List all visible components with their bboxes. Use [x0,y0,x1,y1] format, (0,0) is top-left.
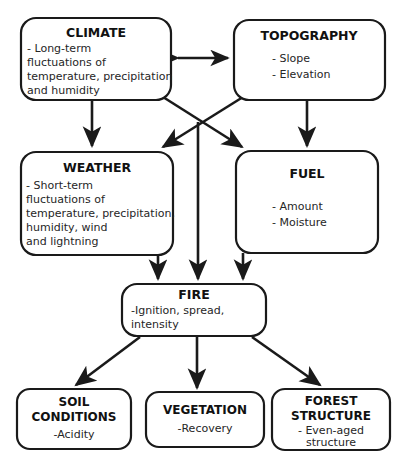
node-fuel-title: FUEL [289,166,324,181]
node-vegetation-line-0: -Recovery [178,422,233,435]
node-fire-line-1: intensity [131,318,179,331]
flowchart-svg: CLIMATE - Long-term fluctuations of temp… [0,0,405,471]
node-fire-title: FIRE [178,287,209,302]
diagram-canvas: CLIMATE - Long-term fluctuations of temp… [0,0,405,471]
node-fire[interactable]: FIRE -Ignition, spread, intensity [122,284,266,336]
node-climate-line-1: fluctuations of [27,56,107,69]
edge-fire-soil [76,337,140,385]
node-forest-structure[interactable]: FOREST STRUCTURE - Even-aged structure [272,389,390,450]
node-soil-conditions-title: SOIL [59,395,90,409]
node-weather-line-0: - Short-term [26,179,93,192]
node-weather-line-1: fluctuations of [26,193,106,206]
node-topography[interactable]: TOPOGRAPHY - Slope - Elevation [234,20,385,100]
node-climate-line-0: - Long-term [27,42,91,55]
node-climate[interactable]: CLIMATE - Long-term fluctuations of temp… [21,18,172,100]
node-fuel-line-0: - Amount [272,200,323,213]
node-climate-line-3: and humidity [27,84,100,97]
node-soil-conditions[interactable]: SOIL CONDITIONS -Acidity [17,389,131,449]
node-weather-line-4: and lightning [26,235,99,248]
node-weather-line-2: temperature, precipitation, [26,207,175,220]
node-climate-title: CLIMATE [66,25,126,40]
node-forest-structure-line-1: structure [306,436,356,449]
node-climate-line-2: temperature, precipitation [27,70,172,83]
node-topography-title: TOPOGRAPHY [260,28,358,43]
node-weather-title: WEATHER [63,160,132,175]
node-forest-structure-title2: STRUCTURE [291,409,371,423]
node-vegetation-box[interactable] [146,392,264,447]
node-vegetation-title: VEGETATION [163,403,247,417]
edge-fire-forest [252,337,320,385]
node-topography-line-0: - Slope [272,52,310,65]
node-forest-structure-title: FOREST [305,394,358,408]
node-fuel-line-1: - Moisture [272,216,327,229]
node-soil-conditions-title2: CONDITIONS [31,410,116,424]
node-fire-line-0: -Ignition, spread, [131,304,224,317]
node-weather-line-3: humidity, wind [26,221,108,234]
node-weather[interactable]: WEATHER - Short-term fluctuations of tem… [21,152,175,255]
node-vegetation[interactable]: VEGETATION -Recovery [146,392,264,447]
node-topography-line-1: - Elevation [272,68,331,81]
node-soil-conditions-line-0: -Acidity [53,428,95,441]
node-fuel[interactable]: FUEL - Amount - Moisture [236,151,378,253]
